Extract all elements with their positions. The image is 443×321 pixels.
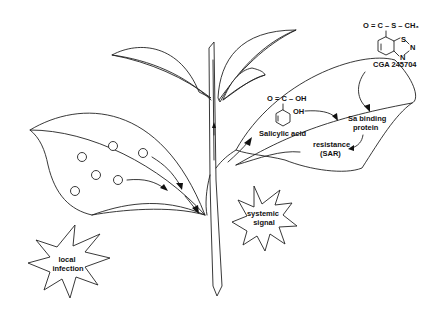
systemic-signal-burst: systemic signal [232,186,297,251]
cga-245704-label: CGA 245704 [373,60,417,69]
local-infection-burst: local infection [28,225,110,298]
infection-spot [139,149,148,158]
sa-hydroxyl-label: OH [293,107,304,116]
cga-thioester-label: O = C – S – CH₃ [363,21,419,30]
infection-spot [71,187,80,196]
sar-diagram: O = C – OH OH Salicylic acid Sa binding … [0,0,443,321]
infection-spot [92,171,101,180]
cga-ring-n1: N [410,43,415,52]
infection-spot [78,153,87,162]
infection-spot [109,142,118,151]
cga-ring-s: S [401,35,406,44]
salicylic-acid-label: Salicylic acid [259,129,307,138]
infection-spot [114,176,123,185]
sa-carboxyl-label: O = C – OH [267,94,306,103]
leaf-top-left [112,47,211,100]
leaf-infected [30,113,205,215]
leaf-top-right [218,30,296,102]
